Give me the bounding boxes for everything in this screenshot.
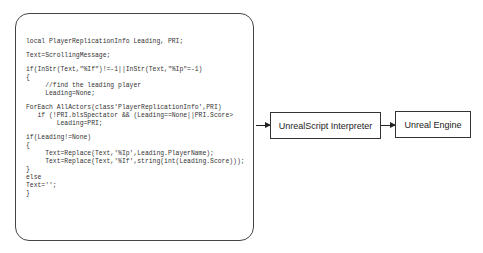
code-line: } bbox=[26, 190, 245, 198]
engine-label: Unreal Engine bbox=[404, 120, 461, 130]
code-line: Text=Replace(Text,'%If',string(int(Leadi… bbox=[26, 158, 245, 166]
code-line: ForEach AllActors(class'PlayerReplicatio… bbox=[26, 104, 245, 112]
code-line: Leading=PRI; bbox=[26, 120, 245, 128]
code-line: if(InStr(Text,"%If")!=-1||InStr(Text,"%I… bbox=[26, 66, 245, 74]
code-line: Text=''; bbox=[26, 182, 245, 190]
code-line: //find the leading player bbox=[26, 82, 245, 90]
code-line: Leading=None; bbox=[26, 90, 245, 98]
arrow-interpreter-to-engine bbox=[381, 125, 395, 126]
code-line: { bbox=[26, 142, 245, 150]
code-line: if (!PRI.blsSpectator && (Leading==None|… bbox=[26, 112, 245, 120]
code-line: Text=Replace(Text,'%Ip',Leading.PlayerNa… bbox=[26, 150, 245, 158]
code-line: else bbox=[26, 174, 245, 182]
code-line: { bbox=[26, 74, 245, 82]
code-line: if(Leading!=None) bbox=[26, 134, 245, 142]
interpreter-node: UnrealScript Interpreter bbox=[270, 112, 381, 139]
code-line: Text=ScrollingMessage; bbox=[26, 52, 245, 60]
interpreter-label: UnrealScript Interpreter bbox=[279, 121, 373, 131]
arrow-code-to-interpreter bbox=[256, 125, 270, 126]
code-block: local PlayerReplicationInfo Leading, PRI… bbox=[26, 38, 245, 198]
code-line: } bbox=[26, 166, 245, 174]
engine-node: Unreal Engine bbox=[395, 111, 471, 138]
code-line: local PlayerReplicationInfo Leading, PRI… bbox=[26, 38, 245, 46]
